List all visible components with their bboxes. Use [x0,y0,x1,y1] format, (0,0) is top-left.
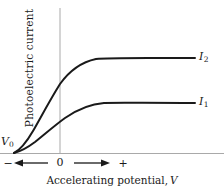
curve-label-i1: I1 [199,95,208,109]
stopping-potential-subscript: 0 [9,140,14,149]
curve-i1-subscript: 1 [203,100,208,109]
stopping-potential-symbol: V [1,135,9,148]
x-axis-label-text: Accelerating potential, [46,174,168,186]
y-axis-label: Photoelectric current [23,3,35,133]
curve-i2 [14,58,195,153]
photoelectric-current-figure: Photoelectric current V0 I2 I1 − 0 + Acc… [0,0,224,196]
x-axis-label: Accelerating potential,V [0,174,224,186]
x-axis-label-symbol: V [168,174,178,186]
zero-tick-label: 0 [54,156,66,169]
positive-sign-label: + [117,157,129,170]
negative-sign-label: − [2,157,14,170]
curve-i2-subscript: 2 [203,55,208,64]
negative-direction-arrow [14,159,48,166]
stopping-potential-label: V0 [1,135,14,149]
curve-label-i2: I2 [199,50,208,64]
positive-direction-arrow [74,159,110,166]
curve-i1 [14,103,195,153]
